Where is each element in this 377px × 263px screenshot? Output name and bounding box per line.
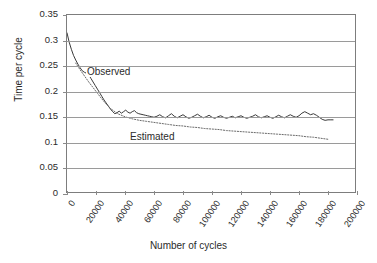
y-tick-label: 0.15	[24, 111, 58, 121]
y-tick-label: 0	[24, 188, 58, 198]
x-tick-mark	[241, 191, 242, 195]
x-tick-mark	[357, 191, 358, 195]
y-tick-label: 0.35	[24, 9, 58, 19]
plot-area: Observed Estimated	[66, 14, 356, 193]
x-tick-mark	[299, 191, 300, 195]
gridline	[67, 92, 355, 93]
y-tick-label: 0.2	[24, 86, 58, 96]
y-tick-mark	[63, 41, 67, 42]
y-tick-mark	[63, 143, 67, 144]
chart-figure: 00.050.10.150.20.250.30.35 Time per cycl…	[0, 0, 377, 263]
y-tick-mark	[63, 15, 67, 16]
gridline	[67, 168, 355, 169]
y-tick-mark	[63, 194, 67, 195]
gridline	[67, 41, 355, 42]
x-axis-title: Number of cycles	[0, 240, 377, 251]
x-tick-mark	[270, 191, 271, 195]
x-tick-mark	[125, 191, 126, 195]
y-tick-mark	[63, 168, 67, 169]
series-lines	[67, 15, 357, 194]
x-tick-mark	[328, 191, 329, 195]
gridline	[67, 143, 355, 144]
gridline	[67, 117, 355, 118]
x-tick-mark	[183, 191, 184, 195]
y-tick-mark	[63, 66, 67, 67]
y-tick-label: 0.25	[24, 60, 58, 70]
x-tick-mark	[67, 191, 68, 195]
annotation-estimated: Estimated	[129, 132, 175, 142]
y-tick-mark	[63, 117, 67, 118]
y-axis-title: Time per cycle	[13, 20, 24, 120]
annotation-observed: Observed	[86, 67, 131, 77]
y-tick-mark	[63, 92, 67, 93]
y-tick-label: 0.3	[24, 35, 58, 45]
y-tick-label: 0.1	[24, 137, 58, 147]
x-tick-mark	[154, 191, 155, 195]
x-tick-mark	[96, 191, 97, 195]
y-tick-label: 0.05	[24, 162, 58, 172]
x-tick-mark	[212, 191, 213, 195]
